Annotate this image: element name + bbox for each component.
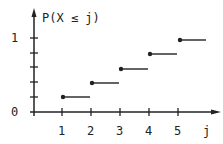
- step-point-4: [149, 53, 152, 56]
- step-point-3: [120, 68, 123, 71]
- y-tick-label-1: 1: [11, 31, 18, 45]
- step-series: [62, 39, 207, 99]
- step-point-2: [91, 82, 94, 85]
- x-tick-label-5: 5: [174, 124, 181, 138]
- x-axis-arrow-icon: [211, 110, 221, 115]
- x-tick-label-1: 1: [58, 124, 65, 138]
- x-tick-label-3: 3: [116, 124, 123, 138]
- step-point-5: [179, 39, 182, 42]
- step-function-chart: P(X ≤ j) 1 0 1 2 3 4 5 j: [0, 0, 223, 144]
- y-axis-arrow-icon: [32, 8, 37, 17]
- x-tick-label-2: 2: [87, 124, 94, 138]
- x-tick-label-4: 4: [145, 124, 152, 138]
- y-axis-label: P(X ≤ j): [42, 11, 100, 25]
- x-axis-label: j: [203, 124, 210, 138]
- y-tick-label-0: 0: [11, 105, 18, 119]
- step-point-1: [62, 96, 65, 99]
